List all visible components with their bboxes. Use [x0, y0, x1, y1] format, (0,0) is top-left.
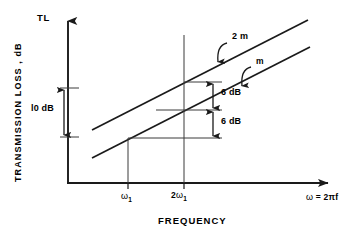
y-axis-symbol: TL — [37, 13, 50, 23]
level-difference-label: l0 dB — [31, 104, 54, 113]
x-tick-label-2omega1: 2ω1 — [171, 191, 187, 202]
transmission-loss-figure: TRANSMISSION LOSS , dB TL l0 dB 2 m m 6 … — [0, 0, 361, 237]
octave-step-upper-label: 6 dB — [221, 88, 241, 97]
leader-hook-2m — [218, 43, 227, 62]
x-tick-label-omega1: ω1 — [121, 192, 132, 203]
x-axis-title: FREQUENCY — [158, 216, 227, 226]
slope-label-m: m — [256, 57, 264, 66]
omega-subscript: 1 — [128, 196, 132, 203]
leader-hook-m — [242, 67, 251, 86]
x-axis-symbol-rest: = 2πf — [313, 192, 338, 202]
y-axis-title: TRANSMISSION LOSS , dB — [14, 42, 23, 182]
series-line-m — [92, 47, 310, 158]
axis-lines — [67, 21, 328, 183]
data-lines — [92, 20, 310, 158]
series-line-2m — [92, 20, 308, 130]
x-axis-symbol: ω = 2πf — [306, 193, 338, 202]
slope-label-2m: 2 m — [232, 32, 248, 41]
omega-subscript: 1 — [183, 195, 187, 202]
octave-step-lower-label: 6 dB — [221, 117, 241, 126]
construction-lines — [60, 35, 222, 183]
